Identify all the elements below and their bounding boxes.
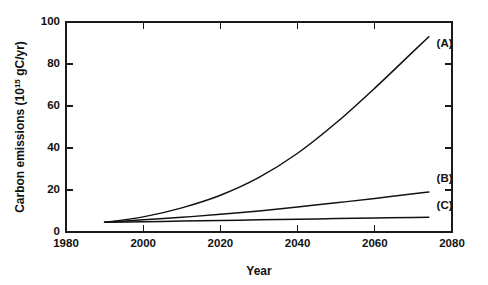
y-axis-tick-labels: 020406080100 [41, 15, 60, 237]
curve-labels: (A)(B)(C) [437, 37, 453, 211]
x-tick-label: 2080 [439, 237, 465, 249]
chart-container: 020406080100 198020002020204020602080 (A… [0, 0, 488, 285]
x-axis-title: Year [246, 264, 272, 278]
carbon-emissions-line-chart: 020406080100 198020002020204020602080 (A… [0, 0, 488, 285]
curve-label-c: (C) [437, 199, 453, 211]
y-axis-ticks [66, 22, 452, 232]
x-tick-label: 2060 [362, 237, 388, 249]
y-tick-label: 20 [47, 183, 60, 195]
y-tick-label: 80 [47, 57, 60, 69]
y-axis-title: Carbon emissions (1015 gC/yr) [13, 41, 27, 213]
data-curves [105, 37, 429, 223]
y-axis-title-tail: gC/yr) [13, 41, 27, 79]
curve-label-b: (B) [437, 172, 453, 184]
x-axis-ticks [143, 22, 375, 232]
x-tick-label: 2000 [130, 237, 156, 249]
x-tick-label: 1980 [53, 237, 79, 249]
plot-frame [66, 22, 452, 232]
y-tick-label: 40 [47, 141, 60, 153]
curve-a [105, 37, 429, 223]
y-tick-label: 100 [41, 15, 60, 27]
curve-label-a: (A) [437, 37, 453, 49]
x-axis-tick-labels: 198020002020204020602080 [53, 237, 465, 249]
y-tick-label: 0 [54, 225, 60, 237]
y-axis-title-main: Carbon emissions (10 [13, 88, 27, 213]
x-tick-label: 2040 [285, 237, 311, 249]
x-tick-label: 2020 [208, 237, 234, 249]
y-tick-label: 60 [47, 99, 60, 111]
